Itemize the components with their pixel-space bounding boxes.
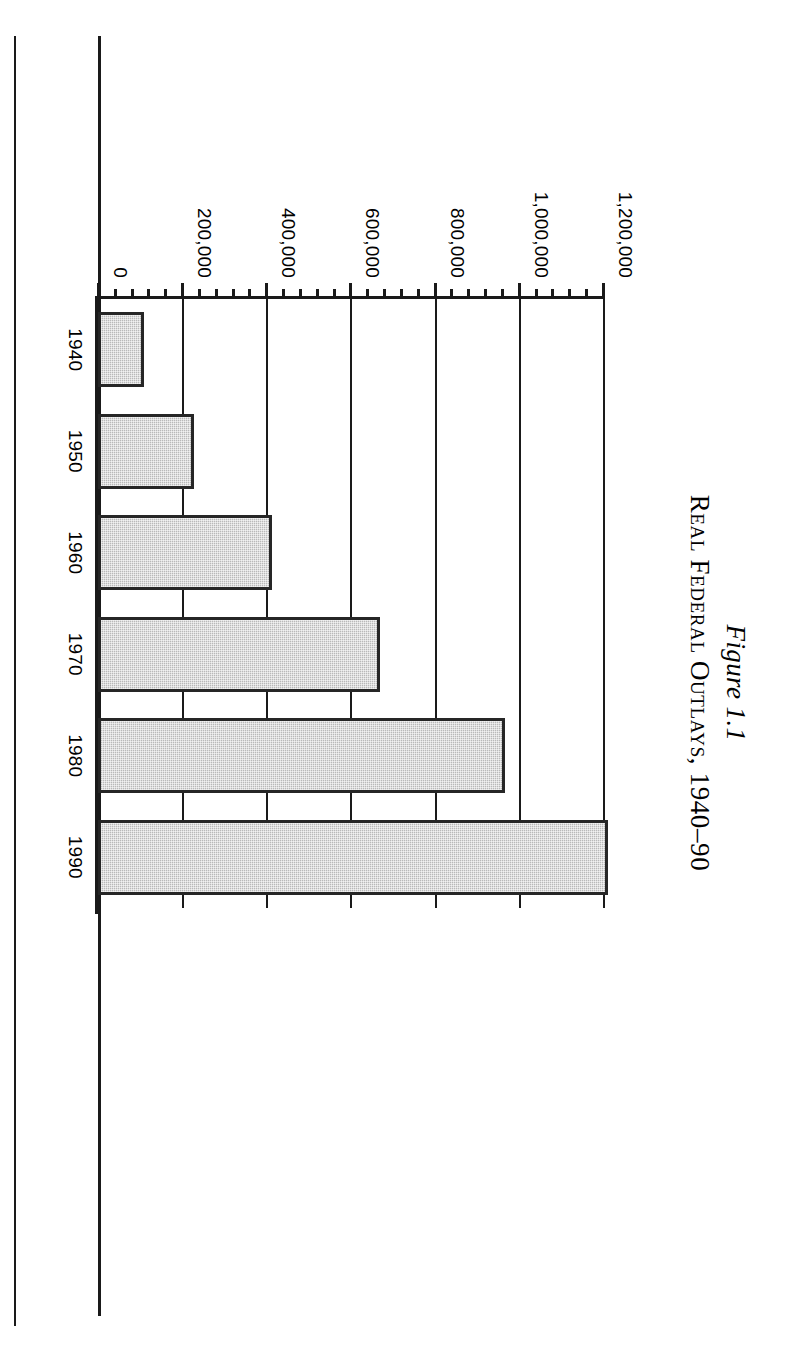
bar-1980[interactable]	[98, 718, 505, 793]
value-axis-tick-major	[265, 283, 268, 296]
category-label-1980: 1980	[64, 705, 98, 807]
category-label-1950: 1950	[64, 401, 98, 503]
value-axis-tick-minor	[484, 289, 487, 296]
bar-slot	[98, 401, 603, 503]
chart-plot-area: 1,200,0001,000,000800,000600,000400,0002…	[98, 296, 603, 908]
value-axis-tick-label: 1,000,000	[529, 192, 551, 278]
value-axis-tick-minor	[416, 289, 419, 296]
figure-number: Figure 1.1	[719, 38, 751, 1328]
bar-1960[interactable]	[98, 515, 272, 590]
value-axis-tick-minor	[130, 289, 133, 296]
bar-slot	[98, 502, 603, 604]
category-axis-label-group: 194019501960197019801990	[64, 299, 98, 908]
bar-slot	[98, 705, 603, 807]
value-axis-tick-major	[97, 283, 100, 296]
value-axis-tick-minor	[467, 289, 470, 296]
bar-slot	[98, 807, 603, 909]
value-axis-tick-major	[349, 283, 352, 296]
category-label-1940: 1940	[64, 299, 98, 401]
value-axis-title: Million 1990 Dollars	[0, 161, 98, 184]
value-axis-tick-minor	[383, 289, 386, 296]
value-axis-tick-minor	[282, 289, 285, 296]
value-axis-tick-minor	[501, 289, 504, 296]
value-axis-tick-minor	[450, 289, 453, 296]
value-axis-tick-minor	[568, 289, 571, 296]
value-axis-tick-minor	[400, 289, 403, 296]
value-axis-tick-major	[517, 283, 520, 296]
category-label-1990: 1990	[64, 807, 98, 909]
value-axis-tick-minor	[147, 289, 150, 296]
value-axis-tick-label: 600,000	[361, 208, 383, 278]
value-axis-tick-minor	[551, 289, 554, 296]
value-axis-tick-minor	[299, 289, 302, 296]
figure-heading: Figure 1.1 Real Federal Outlays, 1940–90	[682, 38, 751, 1328]
figure-container: Figure 1.1 Real Federal Outlays, 1940–90…	[51, 38, 751, 1328]
value-axis-tick-major	[602, 283, 605, 296]
value-axis-tick-minor	[534, 289, 537, 296]
value-axis-tick-minor	[315, 289, 318, 296]
value-axis-tick-minor	[198, 289, 201, 296]
value-axis-tick-label: 200,000	[193, 208, 215, 278]
value-axis-tick-minor	[585, 289, 588, 296]
bar-1950[interactable]	[98, 414, 194, 489]
value-axis-tick-label: 800,000	[445, 208, 467, 278]
value-axis-tick-minor	[231, 289, 234, 296]
value-axis-tick-minor	[366, 289, 369, 296]
category-label-1960: 1960	[64, 502, 98, 604]
bar-slot	[98, 299, 603, 401]
value-axis-tick-label: 400,000	[277, 208, 299, 278]
value-axis-tick-minor	[113, 289, 116, 296]
bar-1940[interactable]	[98, 312, 144, 387]
value-axis-tick-minor	[214, 289, 217, 296]
value-axis-tick-major	[433, 283, 436, 296]
value-axis-tick-minor	[164, 289, 167, 296]
category-label-1970: 1970	[64, 604, 98, 706]
value-axis-tick-major	[181, 283, 184, 296]
value-axis-tick-minor	[332, 289, 335, 296]
bar-slot	[98, 604, 603, 706]
figure-title: Real Federal Outlays, 1940–90	[682, 38, 716, 1328]
bar-group	[98, 299, 603, 908]
value-axis-tick-minor	[248, 289, 251, 296]
bar-1970[interactable]	[98, 617, 380, 692]
page-rule-left	[14, 36, 16, 1326]
value-axis-tick-label: 0	[109, 267, 131, 278]
bar-1990[interactable]	[98, 820, 608, 895]
value-axis-tick-label: 1,200,000	[614, 192, 636, 278]
